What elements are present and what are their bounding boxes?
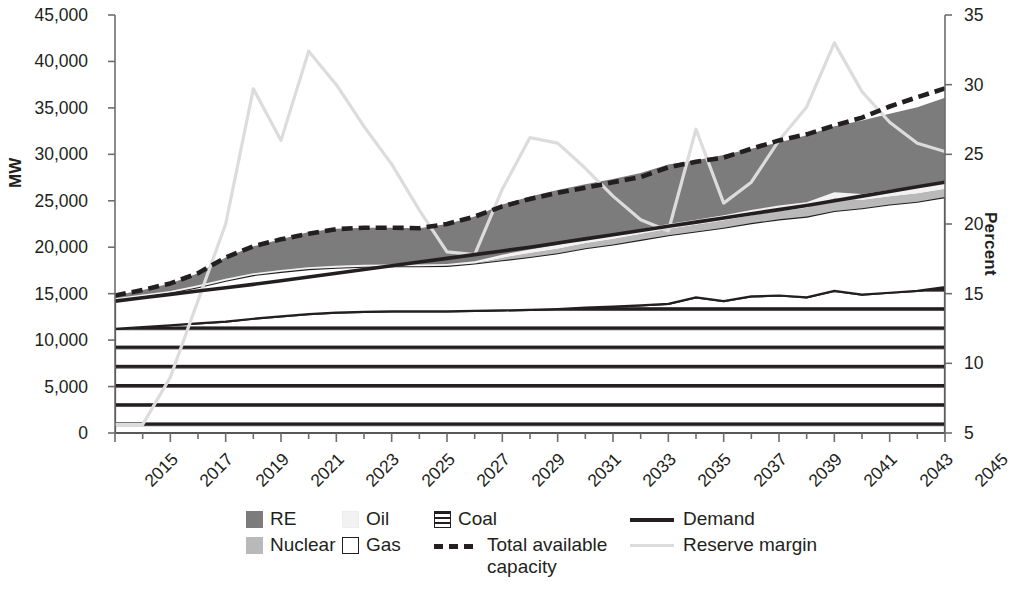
reserve-margin-line-icon [630, 537, 674, 554]
legend-label-demand: Demand [683, 508, 755, 530]
demand-line-icon [630, 511, 674, 528]
legend-item-demand[interactable]: Demand [630, 508, 755, 530]
legend-label-total: Total available capacity [487, 534, 627, 578]
legend-item-oil[interactable]: Oil [342, 508, 434, 530]
re-swatch-icon [246, 511, 263, 528]
legend-item-reserve[interactable]: Reserve margin [630, 534, 817, 556]
legend-item-nuclear[interactable]: Nuclear [246, 534, 342, 556]
chart-root: MW Percent 05,00010,00015,00020,00025,00… [0, 0, 1022, 597]
nuclear-swatch-icon [246, 537, 263, 554]
legend-item-re[interactable]: RE [246, 508, 342, 530]
legend-label-gas: Gas [366, 534, 401, 556]
legend-label-nuclear: Nuclear [270, 534, 335, 556]
oil-swatch-icon [342, 511, 359, 528]
legend-row-1: RE Oil Coal Demand [246, 508, 886, 530]
total-capacity-line-icon [434, 537, 478, 554]
gas-swatch-icon [342, 537, 359, 554]
chart-legend: RE Oil Coal Demand Nuclear Gas [246, 508, 886, 582]
legend-item-total[interactable]: Total available capacity [434, 534, 630, 578]
legend-label-oil: Oil [366, 508, 389, 530]
coal-swatch-icon [434, 511, 451, 528]
legend-label-coal: Coal [458, 508, 497, 530]
legend-label-reserve: Reserve margin [683, 534, 817, 556]
legend-item-gas[interactable]: Gas [342, 534, 434, 556]
legend-row-2: Nuclear Gas Total available capacity Res… [246, 534, 886, 578]
legend-item-coal[interactable]: Coal [434, 508, 630, 530]
legend-label-re: RE [270, 508, 296, 530]
